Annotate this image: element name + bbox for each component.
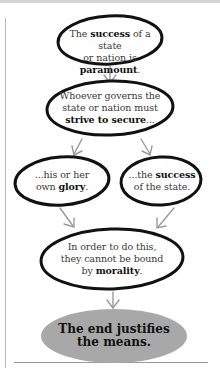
node-3-keyword-glory: glory <box>59 181 86 192</box>
node-6-line2: the means. <box>77 335 151 349</box>
node-1-keyword-success: success <box>90 28 130 39</box>
node-5-text: In order to do this, they cannot be boun… <box>52 241 172 277</box>
node-4-keyword-success: success <box>156 169 196 180</box>
node-3-line2-c: . <box>85 181 88 192</box>
node-1-keyword-paramount: paramount <box>80 64 138 75</box>
node-2-ellipsis: ... <box>146 114 155 125</box>
node-2-line1: Whoever governs the <box>60 90 161 101</box>
node-6-text: The end justifies the means. <box>54 323 174 349</box>
node-4-line1-a: ...the <box>129 169 156 180</box>
node-6-line1: The end justifies <box>58 322 169 336</box>
node-4-line2: of the state. <box>134 181 190 192</box>
node-5-line2: they cannot be bound <box>61 253 164 264</box>
arrow-n3-n5 <box>60 208 74 227</box>
arrow-n4-n5 <box>157 208 174 228</box>
arrow-n2-n4 <box>141 139 152 155</box>
node-2-keyword-strive: strive to secure <box>65 114 146 125</box>
node-2-text: Whoever governs the state or nation must… <box>50 90 170 126</box>
node-3-text: ...his or her own glory. <box>22 169 102 193</box>
node-5-keyword-morality: morality <box>96 265 140 276</box>
arrow-n5-n6 <box>107 292 119 308</box>
node-1-line2-a: or nation is <box>83 52 137 63</box>
node-5-line1: In order to do this, <box>68 241 157 252</box>
node-4-text: ...the success of the state. <box>124 169 200 193</box>
node-2-line2: state or nation must <box>62 102 157 113</box>
node-1-line1-a: The <box>69 28 90 39</box>
arrow-n2-n3 <box>72 139 82 155</box>
node-3-line1: ...his or her <box>35 169 89 180</box>
node-1-text: The success of a state or nation is para… <box>60 28 160 76</box>
node-3-line2-a: own <box>36 181 59 192</box>
node-5-line3-a: by <box>82 265 96 276</box>
node-5-line3-c: . <box>140 265 143 276</box>
node-1-line2-c: . <box>137 64 140 75</box>
